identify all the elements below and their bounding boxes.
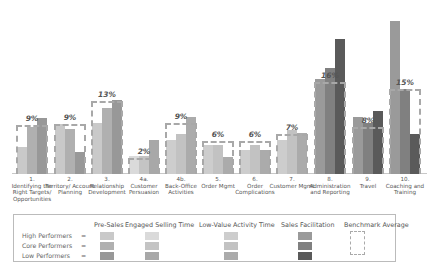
- benchmark-average-box: [239, 141, 271, 174]
- legend-swatch-benchmark: [350, 231, 365, 255]
- chart-legend: Pre-Sales Engaged Selling Time Low-Value…: [13, 214, 396, 262]
- legend-equals: =: [81, 242, 86, 249]
- bar-group: 6%: [240, 0, 271, 174]
- legend-swatch-sales-facilitation: [298, 232, 312, 240]
- legend-equals: =: [81, 252, 86, 259]
- bar-group: 13%: [92, 0, 123, 174]
- legend-swatch-low-value: [224, 242, 238, 250]
- legend-swatch-sales-facilitation: [298, 252, 312, 260]
- x-axis-label-text: Coaching and Training: [380, 183, 430, 196]
- benchmark-average-box: [128, 158, 160, 174]
- x-axis-label-number: 10.: [380, 176, 430, 183]
- legend-header-low-value: Low-Value Activity Time: [199, 221, 275, 229]
- benchmark-average-box: [165, 123, 197, 174]
- bar-chart: 9%1.Identifying the Right Targets/ Oppor…: [0, 0, 441, 205]
- bar-group: 16%: [315, 0, 346, 174]
- legend-equals: =: [81, 232, 86, 239]
- benchmark-pct-label: 9%: [161, 112, 201, 121]
- benchmark-average-box: [202, 141, 234, 174]
- legend-row-high: High Performers: [22, 232, 72, 239]
- benchmark-pct-label: 13%: [87, 90, 127, 99]
- benchmark-pct-label: 6%: [235, 130, 275, 139]
- bar-group: 9%: [55, 0, 86, 174]
- benchmark-pct-label: 8%: [348, 116, 388, 125]
- bar-group: 9%: [17, 0, 48, 174]
- legend-swatch-engaged-selling: [145, 252, 159, 260]
- benchmark-pct-label: 6%: [198, 130, 238, 139]
- benchmark-pct-label: 9%: [50, 113, 90, 122]
- bar-group: 2%: [129, 0, 160, 174]
- benchmark-average-box: [314, 82, 346, 174]
- legend-row-low: Low Performers: [22, 252, 70, 259]
- legend-header-engaged-selling: Engaged Selling Time: [125, 221, 194, 229]
- benchmark-average-box: [276, 134, 308, 174]
- legend-header-sales-facilitation: Sales Facilitation: [281, 221, 335, 229]
- bar-group: 6%: [203, 0, 234, 174]
- legend-swatch-engaged-selling: [145, 242, 159, 250]
- bar-group: 9%: [166, 0, 197, 174]
- bar-group: 7%: [277, 0, 308, 174]
- benchmark-pct-label: 7%: [272, 123, 312, 132]
- benchmark-average-box: [352, 127, 384, 174]
- legend-swatch-low-value: [224, 252, 238, 260]
- x-axis-label: 10.Coaching and Training: [380, 176, 430, 196]
- benchmark-pct-label: 16%: [310, 71, 350, 80]
- benchmark-pct-label: 2%: [124, 147, 164, 156]
- legend-swatch-low-value: [224, 232, 238, 240]
- benchmark-pct-label: 15%: [385, 78, 425, 87]
- benchmark-average-box: [389, 89, 421, 174]
- bar-group: 8%: [353, 0, 384, 174]
- legend-swatch-pre-sales: [100, 252, 114, 260]
- legend-swatch-sales-facilitation: [298, 242, 312, 250]
- legend-header-benchmark: Benchmark Average: [344, 221, 409, 229]
- legend-row-core: Core Performers: [22, 242, 72, 249]
- benchmark-average-box: [16, 125, 48, 174]
- benchmark-average-box: [54, 124, 86, 174]
- benchmark-pct-label: 9%: [12, 114, 52, 123]
- bar-group: 15%: [390, 0, 421, 174]
- legend-swatch-pre-sales: [100, 232, 114, 240]
- legend-header-pre-sales: Pre-Sales: [94, 221, 123, 229]
- legend-swatch-pre-sales: [100, 242, 114, 250]
- benchmark-average-box: [91, 101, 123, 174]
- legend-swatch-engaged-selling: [145, 232, 159, 240]
